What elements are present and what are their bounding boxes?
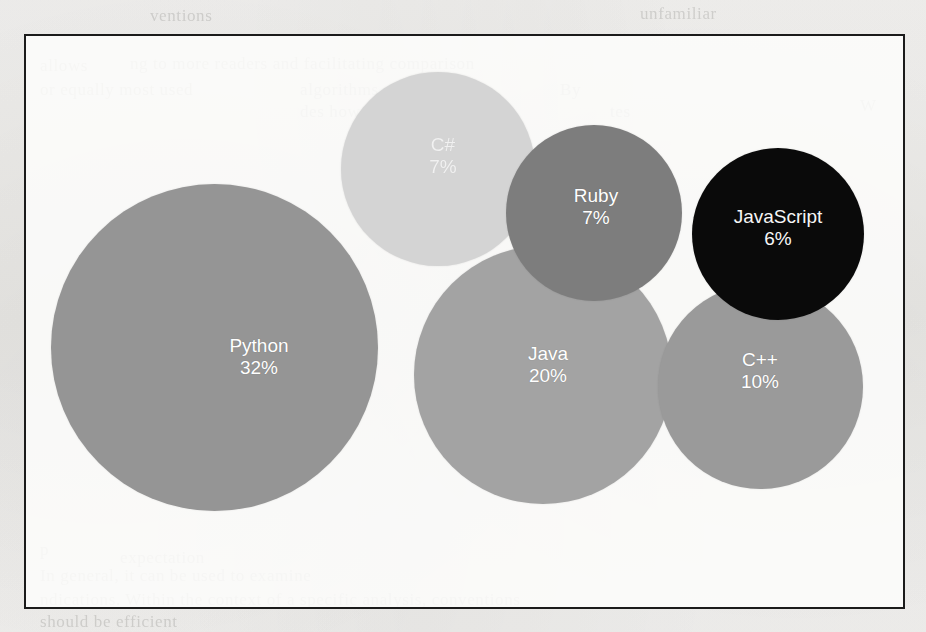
bubble-value: 7%: [582, 207, 609, 229]
bubble-label: C++: [742, 349, 778, 371]
bubble-label: Ruby: [574, 185, 618, 207]
bubble-value: 20%: [529, 365, 567, 387]
bubble-text-group: C#7%: [429, 134, 456, 179]
scanned-page: ventionsunfamiliarallowsng to more reade…: [0, 0, 926, 632]
bubble-text-group: Ruby7%: [574, 185, 618, 230]
bubble-text-group: C++10%: [741, 349, 779, 394]
bubble-ruby[interactable]: Ruby7%: [506, 125, 682, 301]
bleed-through-text: should be efficient: [40, 612, 178, 632]
bubble-text-group: Java20%: [528, 343, 568, 388]
bubble-value: 32%: [240, 357, 278, 379]
bleed-through-text: ventions: [150, 6, 212, 26]
bubble-label: JavaScript: [734, 206, 823, 228]
bubble-label: C#: [431, 134, 455, 156]
chart-frame: Python32%C#7%Java20%C++10%Ruby7%JavaScri…: [24, 34, 905, 609]
bleed-through-text: unfamiliar: [640, 4, 717, 24]
bubble-javascript[interactable]: JavaScript6%: [692, 148, 864, 320]
bubble-value: 6%: [764, 228, 791, 250]
bubble-value: 7%: [429, 156, 456, 178]
bubble-value: 10%: [741, 371, 779, 393]
bubble-python[interactable]: Python32%: [51, 184, 378, 511]
bubble-label: Python: [229, 335, 288, 357]
bubble-text-group: Python32%: [229, 335, 288, 380]
bubble-c[interactable]: C#7%: [341, 72, 535, 266]
bubble-text-group: JavaScript6%: [734, 206, 823, 251]
bubble-label: Java: [528, 343, 568, 365]
bubble-chart-plot-area: Python32%C#7%Java20%C++10%Ruby7%JavaScri…: [26, 36, 903, 607]
